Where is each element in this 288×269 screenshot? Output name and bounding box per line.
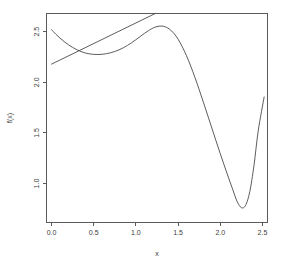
x-tick-label: 0.5 xyxy=(89,229,99,236)
y-axis-title: f(x) xyxy=(6,113,14,123)
x-tick-label: 1.5 xyxy=(173,229,183,236)
secant-line xyxy=(52,14,156,65)
data-series-group xyxy=(52,14,265,208)
x-axis-title: x xyxy=(155,250,159,257)
chart-plot-area: 2.52.01.51.0 0.00.51.01.52.02.5 x f(x) xyxy=(0,0,288,269)
y-tick-label: 2.5 xyxy=(33,27,40,37)
plot-box-frame xyxy=(47,14,268,223)
x-tick-label: 1.0 xyxy=(131,229,141,236)
x-tick-label: 2.5 xyxy=(258,229,268,236)
function-curve xyxy=(52,26,265,208)
x-tick-label: 0.0 xyxy=(47,229,57,236)
y-axis-tick-labels: 2.52.01.51.0 xyxy=(33,27,40,189)
y-tick-label: 2.0 xyxy=(33,77,40,87)
y-tick-label: 1.5 xyxy=(33,128,40,138)
y-tick-label: 1.0 xyxy=(33,179,40,189)
x-tick-label: 2.0 xyxy=(215,229,225,236)
y-axis-ticks xyxy=(43,32,47,184)
x-axis-tick-labels: 0.00.51.01.52.02.5 xyxy=(47,229,268,236)
x-axis-ticks xyxy=(52,222,263,226)
chart-svg: 2.52.01.51.0 0.00.51.01.52.02.5 x f(x) xyxy=(0,0,288,269)
